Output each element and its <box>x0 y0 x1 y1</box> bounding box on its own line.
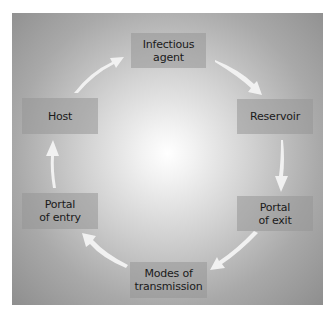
node-label-line: transmission <box>135 280 203 293</box>
node-host: Host <box>22 98 98 134</box>
node-modes-of-transmission: Modes of transmission <box>130 262 207 298</box>
node-portal-of-entry: Portal of entry <box>22 193 98 229</box>
node-label-line: Infectious <box>143 38 195 51</box>
node-portal-of-exit: Portal of exit <box>237 196 313 231</box>
node-label-line: Portal <box>45 198 75 211</box>
node-label-line: Modes of <box>144 267 192 280</box>
node-reservoir: Reservoir <box>237 99 313 134</box>
node-label-line: agent <box>153 51 184 64</box>
node-label-line: of entry <box>39 211 81 224</box>
node-label-line: Portal <box>260 201 290 214</box>
node-infectious-agent: Infectious agent <box>131 33 206 68</box>
node-label-line: of exit <box>258 214 291 227</box>
node-label-line: Host <box>48 110 72 123</box>
node-label-line: Reservoir <box>250 110 300 123</box>
